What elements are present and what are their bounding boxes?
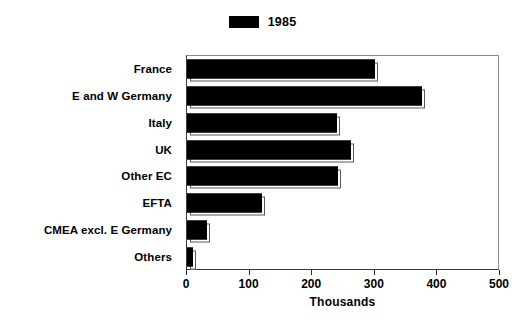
category-label-cell: UK [0,136,180,163]
bar-row [187,83,500,110]
legend-swatch-1985 [229,16,259,28]
x-tick-mark [499,270,500,275]
bar-row [187,243,500,270]
x-axis-ticks [186,270,499,276]
bar-efta [187,194,262,213]
x-tick-mark [249,270,250,275]
bar-e-and-w-germany [187,87,422,106]
x-tick-label: 300 [364,277,384,291]
bars-layer [187,56,500,270]
x-tick-label: 100 [239,277,259,291]
category-label-cell: Others [0,243,180,270]
chart-legend: 1985 [0,16,525,29]
category-label-cell: Italy [0,110,180,137]
category-label-other-ec: Other EC [121,170,172,182]
category-axis: France E and W Germany Italy UK Other EC… [0,56,180,270]
category-label-italy: Italy [148,117,172,129]
bar-row [187,56,500,83]
bar-chart-figure: 1985 France E and W Germany Italy UK Oth… [0,0,525,325]
category-label-e-and-w-germany: E and W Germany [72,90,172,102]
bar-fill [187,140,351,159]
bar-row [187,110,500,137]
category-label-efta: EFTA [142,197,172,209]
bar-fill [187,247,193,266]
bar-fill [187,87,422,106]
bar-italy [187,113,337,132]
x-tick-label: 200 [301,277,321,291]
x-tick-mark [374,270,375,275]
category-label-uk: UK [155,144,172,156]
bar-row [187,163,500,190]
x-tick-mark [436,270,437,275]
bar-france [187,60,375,79]
x-axis-tick-labels: 0100200300400500 [186,277,499,293]
x-tick-mark [311,270,312,275]
x-tick-label: 500 [489,277,509,291]
bar-fill [187,167,338,186]
category-label-cmea-excl-e-germany: CMEA excl. E Germany [44,224,172,236]
bar-fill [187,113,337,132]
bar-row [187,190,500,217]
category-label-france: France [134,63,172,75]
bar-others [187,247,193,266]
bar-fill [187,194,262,213]
bar-row [187,217,500,244]
x-axis-title: Thousands [186,295,499,309]
bar-other-ec [187,167,338,186]
category-label-cell: Other EC [0,163,180,190]
bar-row [187,136,500,163]
x-tick-label: 400 [426,277,446,291]
category-label-others: Others [134,251,172,263]
bar-cmea-excl-e-germany [187,220,207,239]
category-label-cell: CMEA excl. E Germany [0,217,180,244]
bar-fill [187,60,375,79]
bar-fill [187,220,207,239]
category-label-cell: France [0,56,180,83]
category-label-cell: EFTA [0,190,180,217]
bar-uk [187,140,351,159]
legend-label-1985: 1985 [268,16,297,29]
x-tick-mark [186,270,187,275]
x-tick-label: 0 [183,277,190,291]
category-label-cell: E and W Germany [0,83,180,110]
